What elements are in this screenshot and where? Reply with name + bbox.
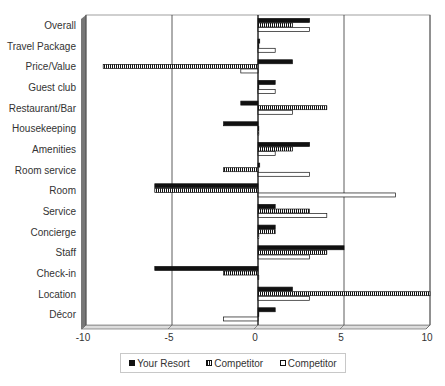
bar	[258, 246, 344, 250]
category-label: Room service	[15, 165, 77, 176]
bar	[258, 255, 310, 259]
bar	[258, 193, 396, 197]
bar	[155, 188, 258, 192]
category-labels: OverallTravel PackagePrice/ValueGuest cl…	[7, 20, 77, 320]
legend-item-competitor-striped: Competitor	[206, 358, 263, 369]
bar	[258, 106, 327, 110]
bar	[258, 308, 275, 312]
bar	[224, 271, 258, 275]
category-label: Décor	[49, 309, 76, 320]
bar	[241, 101, 258, 105]
x-tick-label: 5	[338, 332, 344, 343]
bar	[155, 266, 258, 270]
legend: Your Resort Competitor Competitor	[120, 353, 346, 373]
legend-item-your-resort: Your Resort	[129, 358, 189, 369]
legend-item-competitor-white: Competitor	[280, 358, 337, 369]
category-label: Guest club	[28, 82, 76, 93]
bar	[224, 317, 258, 321]
bar	[258, 28, 310, 32]
category-label: Price/Value	[26, 61, 77, 72]
category-label: Restaurant/Bar	[9, 103, 77, 114]
category-label: Concierge	[30, 227, 76, 238]
striped-swatch-icon	[206, 360, 212, 366]
bar	[258, 23, 292, 27]
bar	[241, 69, 258, 73]
x-axis-ticks: -10-50510	[76, 332, 433, 343]
bar	[224, 122, 258, 126]
floor	[81, 325, 430, 329]
category-label: Staff	[56, 247, 77, 258]
bar	[258, 292, 430, 296]
x-tick-label: 10	[421, 332, 433, 343]
bar	[258, 214, 327, 218]
bar	[258, 230, 275, 234]
bar	[103, 64, 258, 68]
bar	[258, 250, 327, 254]
category-label: Overall	[44, 20, 76, 31]
category-label: Amenities	[32, 144, 76, 155]
bar	[258, 60, 292, 64]
bar-chart: OverallTravel PackagePrice/ValueGuest cl…	[0, 0, 445, 386]
bar	[258, 110, 292, 114]
bar	[258, 287, 292, 291]
solid-swatch-icon	[129, 360, 135, 366]
plot-area	[81, 15, 430, 329]
bar	[224, 168, 258, 172]
bar	[258, 80, 275, 84]
left-wall	[81, 15, 86, 329]
x-tick-label: 0	[252, 332, 258, 343]
bar	[258, 90, 275, 94]
bar	[258, 209, 310, 213]
category-label: Location	[38, 289, 76, 300]
x-tick-label: -5	[165, 332, 174, 343]
bar	[258, 18, 310, 22]
category-label: Room	[49, 185, 76, 196]
bar	[258, 48, 275, 52]
bar	[258, 225, 275, 229]
category-label: Check-in	[37, 268, 76, 279]
bar	[155, 184, 258, 188]
bar	[258, 142, 310, 146]
x-tick-label: -10	[76, 332, 91, 343]
category-label: Service	[43, 206, 77, 217]
bar	[258, 296, 310, 300]
bar	[258, 172, 310, 176]
category-label: Housekeeping	[12, 123, 76, 134]
bar	[258, 147, 292, 151]
category-label: Travel Package	[7, 41, 77, 52]
bar	[258, 204, 275, 208]
bar	[258, 152, 275, 156]
white-swatch-icon	[280, 360, 286, 366]
